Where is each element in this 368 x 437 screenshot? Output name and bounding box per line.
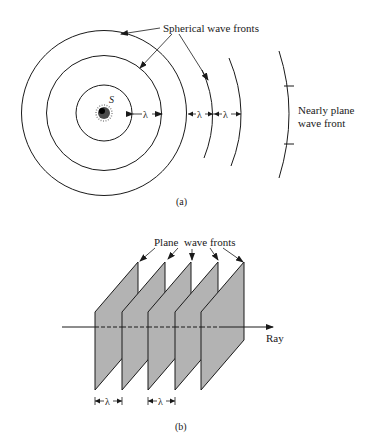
- wave-front-arc-6-nearly-plane: [279, 51, 289, 178]
- lambda-label: λ: [197, 109, 202, 120]
- lambda-label: λ: [223, 109, 228, 120]
- nearly-plane-label-line1: Nearly plane: [298, 104, 355, 116]
- panel-a-caption: (a): [176, 196, 187, 208]
- panel-b-caption: (b): [175, 421, 187, 433]
- pointer-arrow: [121, 28, 160, 34]
- lambda-label: λ: [143, 109, 148, 120]
- wavelength-marker-3: λ: [213, 109, 241, 120]
- ray-label: Ray: [266, 332, 284, 344]
- pointer-arrow: [140, 34, 172, 68]
- wave-front-arc-5: [229, 58, 241, 166]
- wavelength-marker-1: λ: [133, 109, 162, 120]
- panel-b-plane-waves: Ray Plane wave fronts λ λ (: [62, 236, 284, 433]
- wavelength-marker-b2: λ: [148, 396, 175, 407]
- wave-fronts-diagram: S Spherical wave fronts λ λ: [0, 0, 368, 437]
- wavelength-marker-2: λ: [188, 109, 213, 120]
- lambda-label: λ: [105, 396, 110, 407]
- pointer-arrow: [210, 248, 218, 260]
- pointer-arrow: [168, 248, 178, 259]
- point-source-icon: [96, 105, 112, 121]
- pointer-arrow: [223, 248, 243, 262]
- panel-a-spherical-waves: S Spherical wave fronts λ λ: [22, 22, 355, 208]
- pointer-arrow: [140, 248, 155, 261]
- source-label: S: [109, 94, 114, 105]
- lambda-label: λ: [158, 396, 163, 407]
- spherical-wave-fronts-label: Spherical wave fronts: [163, 22, 259, 34]
- pointer-arrow: [179, 34, 208, 80]
- wavelength-marker-b1: λ: [95, 396, 122, 407]
- nearly-plane-label-line2: wave front: [298, 117, 345, 129]
- plane-wave-fronts-label: Plane wave fronts: [154, 236, 236, 248]
